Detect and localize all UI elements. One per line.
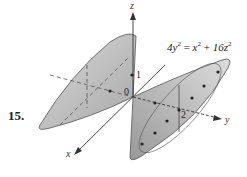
origin-label: 0 bbox=[124, 86, 129, 97]
z-tick-1: 1 bbox=[136, 69, 141, 80]
y-tick-2: 2 bbox=[181, 109, 186, 120]
left-nappe bbox=[39, 34, 136, 129]
problem-number: 15. bbox=[8, 108, 24, 124]
x-axis-label: x bbox=[66, 148, 70, 159]
equation: 4y2 = x2 + 16z2 bbox=[167, 40, 232, 53]
z-axis-label: z bbox=[130, 0, 134, 11]
y-axis-label: y bbox=[225, 114, 229, 125]
